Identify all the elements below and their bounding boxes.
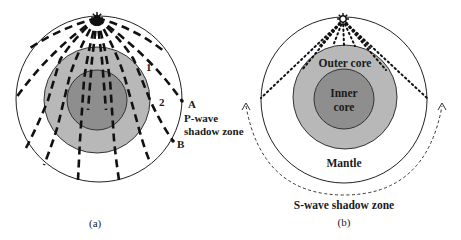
s-wave-shadow-zone-label: S-wave shadow zone xyxy=(294,199,394,211)
p-wave-shadow-label-line2: shadow zone xyxy=(184,125,244,137)
panel-b-caption: (b) xyxy=(338,216,351,229)
ray-1-label: 1 xyxy=(146,61,152,73)
mantle-label: Mantle xyxy=(326,157,361,169)
p-wave-shadow-label-line1: P-wave xyxy=(184,112,218,124)
inner-core-a xyxy=(67,70,127,130)
point-a-label: A xyxy=(188,98,196,110)
outer-core-label: Outer core xyxy=(319,57,372,69)
panel-b: Outer core Inner core Mantle S-wave shad… xyxy=(242,13,446,229)
inner-core-b xyxy=(314,69,374,129)
seismic-shadow-zone-diagram: 1 2 A P-wave shadow zone B (a) xyxy=(0,0,461,240)
point-b-marker xyxy=(171,139,175,143)
inner-core-label-line1: Inner xyxy=(330,87,357,99)
panel-a-caption: (a) xyxy=(89,217,102,230)
earthquake-focus-icon-a xyxy=(91,12,103,24)
ray-2-label: 2 xyxy=(159,96,165,108)
point-b-label: B xyxy=(177,138,185,150)
panel-a: 1 2 A P-wave shadow zone B (a) xyxy=(16,12,244,230)
point-a-marker xyxy=(180,99,184,103)
inner-core-label-line2: core xyxy=(334,101,355,113)
